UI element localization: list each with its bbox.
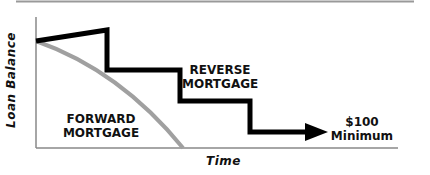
forward-label-line1: FORWARD — [62, 112, 140, 126]
forward-mortgage-label: FORWARD MORTGAGE — [62, 112, 140, 140]
y-axis-label: Loan Balance — [4, 32, 18, 128]
arrowhead-icon — [305, 123, 328, 141]
minimum-label-line1: $100 — [330, 115, 394, 129]
reverse-label-line2: MORTGAGE — [182, 77, 258, 91]
forward-label-line2: MORTGAGE — [62, 126, 140, 140]
minimum-label: $100 Minimum — [330, 115, 394, 143]
x-axis-label: Time — [206, 154, 241, 168]
reverse-label-line1: REVERSE — [182, 63, 258, 77]
reverse-mortgage-label: REVERSE MORTGAGE — [182, 63, 258, 91]
minimum-label-line2: Minimum — [330, 129, 394, 143]
